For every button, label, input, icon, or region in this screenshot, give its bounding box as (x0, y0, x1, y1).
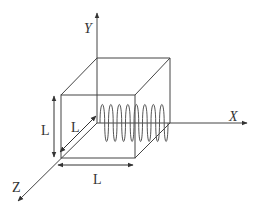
z-axis-label: Z (12, 180, 21, 195)
z-axis (18, 123, 97, 201)
y-axis-label: Y (84, 21, 94, 36)
x-axis-label: X (228, 109, 238, 124)
depth-dimension-label: L (71, 120, 80, 135)
width-dimension-label: L (93, 172, 102, 187)
height-dimension-label: L (41, 123, 50, 138)
cube-coil-diagram: Y X Z L L L (0, 0, 255, 214)
